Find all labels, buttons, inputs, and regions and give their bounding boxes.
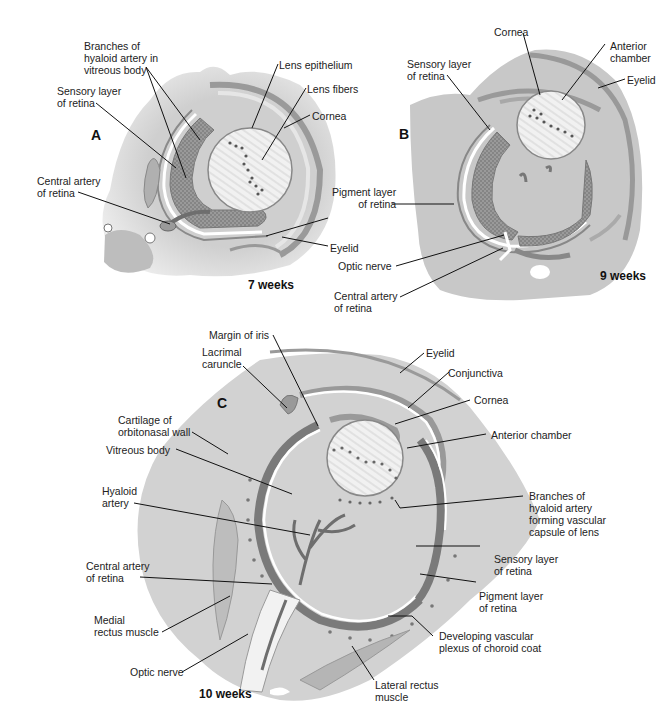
- label-c-hyaloid-artery: Hyaloid artery: [102, 485, 137, 509]
- panel-a-letter: A: [91, 127, 101, 143]
- label-c-pigment-layer: Pigment layer of retina: [479, 590, 543, 614]
- label-a-lens-fibers: Lens fibers: [307, 83, 358, 95]
- label-a-central-artery: Central artery of retina: [37, 175, 101, 199]
- label-c-lacrimal-caruncle: Lacrimal caruncle: [202, 346, 242, 370]
- label-b-sensory-layer: Sensory layer of retina: [407, 58, 471, 82]
- label-c-branches-capsule: Branches of hyaloid artery forming vascu…: [529, 490, 606, 538]
- label-c-lateral-rectus: Lateral rectus muscle: [375, 679, 439, 703]
- label-a-lens-epithelium: Lens epithelium: [279, 59, 353, 71]
- label-a-cornea: Cornea: [312, 110, 346, 122]
- label-c-medial-rectus: Medial rectus muscle: [94, 614, 159, 638]
- label-c-cartilage: Cartilage of orbitonasal wall: [118, 414, 190, 438]
- label-c-margin-iris: Margin of iris: [209, 329, 269, 341]
- panel-a-art: [103, 67, 336, 277]
- label-b-anterior-chamber: Anterior chamber: [610, 40, 651, 64]
- label-a-eyelid: Eyelid: [330, 242, 359, 254]
- label-c-eyelid: Eyelid: [426, 347, 455, 359]
- label-c-choroid-plexus: Developing vascular plexus of choroid co…: [439, 630, 541, 654]
- label-c-vitreous-body: Vitreous body: [106, 444, 170, 456]
- label-b-eyelid: Eyelid: [627, 74, 656, 86]
- label-c-anterior-chamber: Anterior chamber: [491, 429, 572, 441]
- panel-c-age: 10 weeks: [199, 687, 252, 701]
- panel-b-art: [410, 49, 642, 300]
- label-c-conjunctiva: Conjunctiva: [448, 367, 503, 379]
- label-c-central-artery: Central artery of retina: [86, 560, 150, 584]
- label-b-central-artery: Central artery of retina: [334, 290, 398, 314]
- panel-b-letter: B: [399, 126, 409, 142]
- label-c-cornea: Cornea: [474, 394, 508, 406]
- label-c-sensory-layer: Sensory layer of retina: [494, 553, 558, 577]
- label-b-optic-nerve: Optic nerve: [338, 260, 392, 272]
- panel-c-letter: C: [217, 395, 227, 411]
- label-a-branches-hyaloid: Branches of hyaloid artery in vitreous b…: [84, 40, 158, 76]
- panel-b-age: 9 weeks: [600, 269, 646, 283]
- label-pigment-layer-a-b: Pigment layer of retina: [332, 186, 396, 210]
- eye-development-diagram: Development of the eye (cropped) A 7 wee…: [0, 0, 666, 716]
- label-b-cornea: Cornea: [494, 26, 528, 38]
- label-a-sensory-layer: Sensory layer of retina: [57, 85, 121, 109]
- label-c-optic-nerve: Optic nerve: [130, 666, 184, 678]
- cropped-header-text: Development of the eye (cropped): [20, 0, 186, 6]
- panel-a-age: 7 weeks: [248, 278, 294, 292]
